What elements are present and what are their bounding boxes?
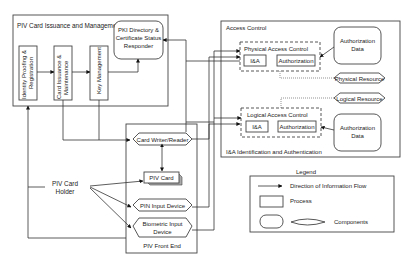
piv-card-label: PIV Card	[149, 175, 173, 181]
logical-auth-data-line2: Data	[351, 133, 364, 139]
front-end-group: PIV Front End Card Writer/Reader PIV Car…	[126, 124, 197, 253]
card-writer-label: Card Writer/Reader	[137, 137, 189, 143]
logical-auth-data-line1: Authorization	[340, 125, 375, 131]
physical-access-title: Physical Access Control	[244, 46, 308, 52]
physical-auth-data-line1: Authorization	[340, 38, 375, 44]
pki-line2: Certificate Status	[116, 35, 162, 41]
legend-process-label: Process	[290, 198, 312, 204]
logical-authorization-label: Authorization	[279, 124, 314, 130]
physical-authorization-label: Authorization	[278, 58, 313, 64]
biometric-line1: Biometric Input	[142, 221, 182, 227]
legend-flow-label: Direction of Information Flow	[290, 183, 367, 189]
pki-line3: Responder	[124, 43, 153, 49]
card-issuance-label: Card Issuance &Maintenance	[56, 55, 69, 99]
ia-footnote: I&A Identification and Authentication	[226, 149, 322, 155]
legend: Legend Direction of Information Flow Pro…	[250, 169, 394, 232]
access-control-title: Access Control	[226, 25, 266, 31]
physical-ia-label: I&A	[250, 58, 260, 64]
biometric-line2: Device	[153, 229, 172, 235]
key-management-label: Key Management	[96, 47, 102, 94]
access-control-group: Access Control Physical Access Control I…	[221, 21, 400, 157]
card-holder-line1: PIV Card	[52, 180, 78, 187]
legend-components-label: Components	[334, 219, 368, 225]
legend-title: Legend	[296, 169, 316, 175]
logical-ia-label: I&A	[252, 124, 262, 130]
issuance-management-title: PIV Card Issuance and Management	[17, 22, 122, 30]
issuance-management-group: PIV Card Issuance and Management Identit…	[13, 15, 168, 106]
physical-auth-data-line2: Data	[351, 46, 364, 52]
logical-access-title: Logical Access Control	[247, 112, 308, 118]
physical-resource-label: Physical Resource	[335, 76, 385, 82]
front-end-title: PIV Front End	[143, 243, 181, 249]
logical-resource-label: Logical Resource	[336, 96, 383, 102]
pin-input-label: PIN Input Device	[140, 203, 186, 209]
legend-process-icon	[260, 196, 283, 207]
pki-line1: PKI Directory &	[118, 27, 159, 33]
card-holder-line2: Holder	[56, 188, 76, 195]
piv-architecture-diagram: PIV Card Issuance and Management Identit…	[0, 0, 412, 263]
legend-rounded-component-icon	[260, 215, 283, 228]
